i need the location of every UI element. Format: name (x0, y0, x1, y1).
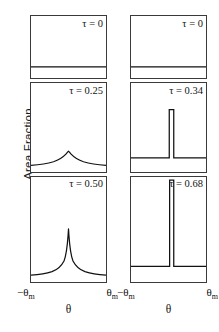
plot-right-tau-068 (131, 177, 206, 282)
curve-left-tau-050-svg (31, 177, 106, 282)
panel-left-tau-025: τ = 0.25 (30, 82, 107, 173)
annotation-tau-left-050: τ = 0.50 (69, 178, 103, 190)
plot-left-tau-050 (31, 177, 106, 282)
annotation-tau-left-025: τ = 0.25 (69, 85, 103, 97)
x-tick-left-low: −θm (17, 286, 35, 301)
x-axis-label-left: θ (30, 303, 107, 315)
annotation-tau-right-068: τ = 0.68 (169, 178, 203, 190)
panel-column-right: τ = 0 τ = 0.34 τ = 0.68 (130, 15, 207, 283)
curve-delta-spike (131, 110, 206, 158)
annotation-tau-right-034: τ = 0.34 (169, 85, 203, 97)
figure-area-fraction-vs-theta: Area Fraction τ = 0 τ = 0.25 (0, 0, 219, 332)
x-tick-right-high: θm (206, 286, 218, 301)
annotation-tau-right-0: τ = 0 (182, 18, 203, 30)
panel-right-tau-0: τ = 0 (130, 15, 207, 79)
annotation-tau-left-0: τ = 0 (82, 18, 103, 30)
curve-delta-spike (131, 180, 206, 266)
curve-cusp-peak (31, 151, 106, 165)
curve-cusp-peak (31, 229, 106, 275)
x-tick-right-low: −θm (117, 286, 135, 301)
panel-left-tau-0: τ = 0 (30, 15, 107, 79)
curve-right-tau-068-svg (131, 177, 206, 282)
panel-right-tau-034: τ = 0.34 (130, 82, 207, 173)
x-axis-label-right: θ (130, 303, 207, 315)
panel-column-left: τ = 0 τ = 0.25 τ = 0.50 (30, 15, 107, 283)
panel-right-tau-068: τ = 0.68 (130, 176, 207, 283)
panel-left-tau-050: τ = 0.50 (30, 176, 107, 283)
